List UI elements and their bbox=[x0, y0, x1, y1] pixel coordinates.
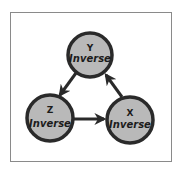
node-z: Z Inverse bbox=[27, 95, 73, 141]
node-z-letter: Z bbox=[47, 105, 54, 115]
arrow-x-to-y bbox=[106, 75, 122, 97]
node-x-label: Inverse bbox=[109, 119, 151, 130]
inverse-cycle-diagram: Y Inverse Z Inverse X Inverse bbox=[0, 0, 178, 172]
node-y-letter: Y bbox=[86, 43, 94, 53]
arrow-y-to-z bbox=[60, 73, 76, 95]
node-y: Y Inverse bbox=[68, 33, 112, 77]
node-y-label: Inverse bbox=[69, 53, 111, 64]
node-x-letter: X bbox=[127, 108, 134, 118]
node-x: X Inverse bbox=[107, 97, 153, 143]
node-z-label: Inverse bbox=[29, 118, 71, 129]
